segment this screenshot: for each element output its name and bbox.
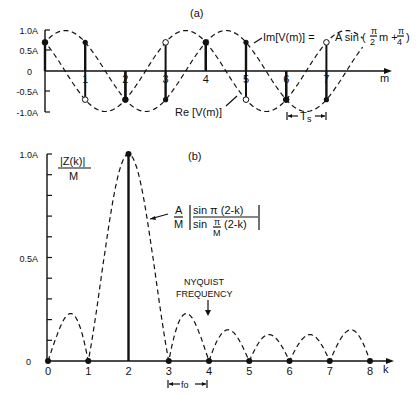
im-pi-1: π [371,26,377,36]
a-xtick: 1 [82,73,88,85]
b-xtick: 6 [286,365,292,377]
a-ytick-0_5: 0.5A [19,46,38,56]
b-ytick-0_5: 0.5A [19,254,38,264]
formula-A: A [175,204,183,216]
im-sample-dot [163,97,168,102]
panel-a: (a) 1.0A 0.5A 0 -0.5A -1.0A m 1234567 Im… [16,7,409,124]
b-ytitle-num: |Z(k)| [60,155,85,167]
im-pi-2: π [398,26,404,36]
panel-a-x-ticks: 1234567 [82,73,329,85]
nyquist-line2: FREQUENCY [176,289,233,299]
im-label-prefix: A sin ( [335,31,366,43]
sinc-envelope [48,154,370,361]
re-sample-circle [82,97,88,103]
im-leader-line [254,38,262,43]
re-sample-circle [42,40,48,46]
re-leader-line [226,96,237,106]
im-sample-dot [83,40,88,45]
b-xtick: 8 [367,365,373,377]
re-sample-circle [283,97,289,103]
b-xtick: 5 [246,365,252,377]
re-label: Re [V(m)] [175,106,222,118]
a-xtick: 7 [323,73,329,85]
figure: (a) 1.0A 0.5A 0 -0.5A -1.0A m 1234567 Im… [0,0,419,395]
b-x-label: k [383,363,389,375]
b-xtick: 2 [125,365,131,377]
panel-b: (b) 1.0A 0.5A 0 |Z(k)| M k 012345678 A M… [19,150,394,390]
a-xtick: 4 [203,73,209,85]
a-x-label: m [380,72,389,84]
formula-num: sin π (2-k) [193,204,243,216]
re-sample-circle [243,97,249,103]
re-sample-circle [163,40,169,46]
sample-dot [206,358,212,364]
im-m-plus: m + [379,31,398,43]
sample-dot [327,358,333,364]
panel-a-label: (a) [190,7,203,19]
formula-M: M [174,218,183,230]
re-sample-circle [123,97,129,103]
sample-dot [85,358,91,364]
re-sample-circle [324,40,330,46]
sample-dot [367,358,373,364]
b-xtick: 3 [166,365,172,377]
panel-b-samples [45,151,373,364]
im-sample-dot [243,40,248,45]
b-xtick: 0 [45,365,51,377]
sample-dot [166,358,172,364]
a-ytick-m1: -1.0A [16,108,38,118]
ts-marker: T s [287,110,326,124]
b-xtick: 1 [85,365,91,377]
ts-sub: s [307,114,312,124]
formula-den: sin [193,218,207,230]
a-xtick: 2 [122,73,128,85]
a-xtick: 6 [283,73,289,85]
sample-dot [287,358,293,364]
sample-dot [126,151,132,157]
nyquist-line1: NYQUIST [184,277,225,287]
a-xtick: 5 [243,73,249,85]
im-sample-dot [324,97,329,102]
a-ytick-m0_5: -0.5A [16,87,38,97]
a-ytick-1: 1.0A [19,26,38,36]
b-ytitle-den: M [69,170,78,182]
fo-marker: fo [168,380,207,390]
re-sample-circle [203,40,209,46]
a-ytick-0: 0 [27,67,32,77]
im-close: ) [406,31,410,43]
sample-dot [246,358,252,364]
fo-label: fo [181,380,189,390]
ts-label: T [300,110,307,122]
panel-b-x-ticks: 012345678 [45,365,373,377]
im-label-lhs: Im[V(m)] = [263,31,315,43]
b-xtick: 7 [327,365,333,377]
panel-b-label: (b) [188,150,201,162]
b-ytick-1: 1.0A [19,150,38,160]
im-den-2: 2 [370,37,375,47]
sample-dot [45,358,51,364]
formula-den-tail: (2-k) [224,218,247,230]
formula-den-M: M [213,228,221,238]
formula-den-pi: π [214,217,220,227]
b-ytick-0: 0 [26,357,31,367]
a-xtick: 3 [163,73,169,85]
im-den-4: 4 [397,37,402,47]
b-xtick: 4 [206,365,212,377]
